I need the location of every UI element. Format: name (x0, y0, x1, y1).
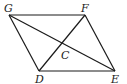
label-C: C (61, 49, 70, 62)
label-D: D (34, 73, 44, 84)
diagonal-DF (39, 15, 85, 71)
label-E: E (110, 73, 119, 84)
label-F: F (80, 2, 89, 15)
label-G: G (4, 2, 13, 15)
geometry-diagram: G F C D E (0, 0, 127, 84)
